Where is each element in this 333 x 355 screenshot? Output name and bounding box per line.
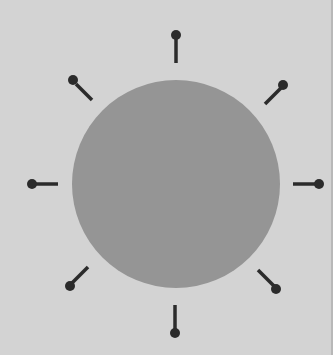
pin-stick [76,84,92,100]
pin-ball-icon [170,328,180,338]
pin-stick [72,267,88,283]
sun-diagram [0,0,333,355]
pin-ball-icon [278,80,288,90]
pin-bottom-right [258,270,281,294]
pin-left [27,179,58,189]
pin-ball-icon [68,75,78,85]
pin-top-left [68,75,92,100]
diagram-canvas [0,0,333,355]
pin-ball-icon [314,179,324,189]
pin-stick [265,88,281,104]
pin-ball-icon [271,284,281,294]
pin-bottom-left [65,267,88,291]
pin-stick [258,270,274,286]
pin-top [171,30,181,63]
pin-ball-icon [65,281,75,291]
pin-top-right [265,80,288,104]
pin-ball-icon [171,30,181,40]
pin-bottom [170,305,180,338]
pin-right [293,179,324,189]
central-circle [72,80,280,288]
pin-ball-icon [27,179,37,189]
